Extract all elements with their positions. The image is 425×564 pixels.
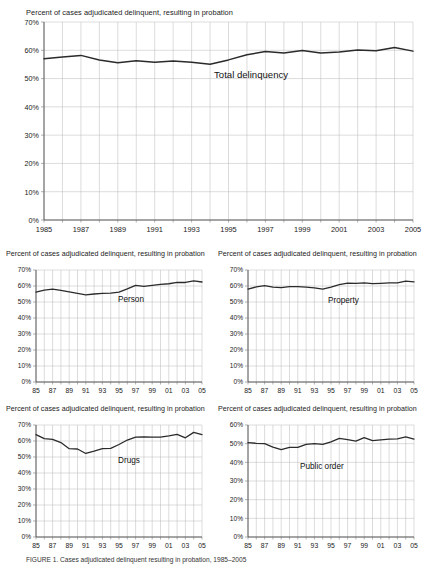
x-tick-label: 97 [132,387,140,394]
x-tick-label: 05 [198,387,206,394]
x-tick-label: 03 [394,542,402,549]
y-tick-label: 40% [25,103,40,112]
y-tick-label: 20% [230,496,243,503]
y-tick-label: 60% [230,282,243,289]
x-tick-label: 91 [294,542,302,549]
x-tick-label: 93 [99,387,107,394]
chart-panel-person: Percent of cases adjudicated delinquent,… [0,246,212,402]
x-tick-label: 85 [244,387,252,394]
y-tick-label: 40% [230,459,243,466]
x-tick-label: 89 [65,387,73,394]
series-annotation-label: Person [118,295,144,304]
series-annotation-label: Public order [300,462,344,471]
x-tick-label: 1989 [110,225,126,234]
y-tick-label: 70% [25,18,40,27]
y-tick-label: 50% [18,298,31,305]
chart-title-person: Percent of cases adjudicated delinquent,… [6,250,206,259]
y-tick-label: 0% [29,216,40,225]
series-annotation-label: Total delinquency [214,69,288,80]
y-tick-label: 10% [230,362,243,369]
chart-plot-property: 0%10%20%30%40%50%60%70%85878991939597990… [212,266,424,400]
y-tick-label: 50% [25,74,40,83]
x-tick-label: 87 [261,542,269,549]
figure-page: Percent of cases adjudicated delinquent,… [0,0,425,564]
x-tick-label: 95 [115,387,123,394]
x-tick-label: 1997 [257,225,273,234]
y-tick-label: 30% [25,131,40,140]
chart-plot-drugs: 0%10%20%30%40%50%60%70%85878991939597990… [0,421,212,555]
x-tick-label: 87 [261,387,269,394]
y-tick-label: 70% [18,421,31,428]
x-tick-label: 97 [132,542,140,549]
x-tick-label: 01 [165,542,173,549]
y-tick-label: 30% [18,330,31,337]
y-tick-label: 20% [18,501,31,508]
y-tick-label: 60% [25,46,40,55]
y-tick-label: 30% [230,330,243,337]
y-tick-label: 30% [18,485,31,492]
y-tick-label: 10% [230,515,243,522]
x-tick-label: 99 [360,542,368,549]
x-tick-label: 91 [294,387,302,394]
y-tick-label: 0% [233,378,243,385]
chart-svg-public-order: 0%10%20%30%40%50%60%85878991939597990103… [212,421,424,555]
series-annotation-label: Property [328,296,360,305]
y-tick-label: 0% [233,533,243,540]
x-tick-label: 2005 [405,225,421,234]
y-tick-label: 60% [18,437,31,444]
y-tick-label: 50% [230,440,243,447]
x-tick-label: 99 [148,542,156,549]
x-tick-label: 89 [277,542,285,549]
x-tick-label: 01 [377,387,385,394]
y-tick-label: 50% [230,298,243,305]
y-tick-label: 40% [230,314,243,321]
chart-svg-total: 0%10%20%30%40%50%60%70%19851987198919911… [0,18,425,240]
x-tick-label: 1985 [36,225,52,234]
x-tick-label: 01 [165,387,173,394]
chart-svg-person: 0%10%20%30%40%50%60%70%85878991939597990… [0,266,212,400]
x-tick-label: 85 [32,542,40,549]
chart-title-property: Percent of cases adjudicated delinquent,… [218,250,418,259]
y-tick-label: 0% [21,533,31,540]
x-tick-label: 89 [277,387,285,394]
x-tick-label: 1987 [73,225,89,234]
chart-title-drugs: Percent of cases adjudicated delinquent,… [6,405,206,414]
x-tick-label: 2001 [331,225,347,234]
chart-panel-drugs: Percent of cases adjudicated delinquent,… [0,401,212,557]
chart-panel-property: Percent of cases adjudicated delinquent,… [212,246,424,402]
x-tick-label: 2003 [368,225,384,234]
x-tick-label: 1995 [220,225,236,234]
chart-plot-person: 0%10%20%30%40%50%60%70%85878991939597990… [0,266,212,400]
x-tick-label: 87 [49,542,57,549]
x-tick-label: 1999 [294,225,310,234]
x-tick-label: 99 [360,387,368,394]
x-tick-label: 85 [244,542,252,549]
y-tick-label: 10% [18,362,31,369]
x-tick-label: 91 [82,387,90,394]
chart-panel-total: Percent of cases adjudicated delinquent,… [0,0,425,243]
x-tick-label: 01 [377,542,385,549]
y-tick-label: 70% [18,266,31,273]
x-tick-label: 93 [311,387,319,394]
y-tick-label: 20% [25,159,40,168]
y-tick-label: 40% [18,469,31,476]
y-tick-label: 10% [25,188,40,197]
chart-plot-total: 0%10%20%30%40%50%60%70%19851987198919911… [0,18,425,240]
x-tick-label: 1991 [146,225,162,234]
y-tick-label: 50% [18,453,31,460]
x-tick-label: 97 [344,542,352,549]
y-tick-label: 70% [230,266,243,273]
series-annotation-label: Drugs [118,456,140,465]
chart-title-public-order: Percent of cases adjudicated delinquent,… [218,405,418,414]
x-tick-label: 93 [99,542,107,549]
y-tick-label: 20% [230,346,243,353]
x-tick-label: 03 [394,387,402,394]
x-tick-label: 97 [344,387,352,394]
figure-caption: FIGURE 1. Cases adjudicated delinquent r… [26,556,416,564]
y-tick-label: 40% [18,314,31,321]
x-tick-label: 87 [49,387,57,394]
x-tick-label: 1993 [183,225,199,234]
x-tick-label: 95 [115,542,123,549]
x-tick-label: 91 [82,542,90,549]
y-tick-label: 0% [21,378,31,385]
